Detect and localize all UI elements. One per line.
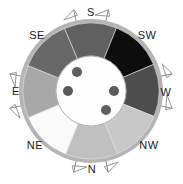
label-nw: NW	[139, 139, 158, 151]
label-e: E	[12, 85, 20, 97]
label-w: W	[161, 86, 172, 98]
label-se: SE	[29, 29, 45, 41]
label-n: N	[88, 163, 96, 175]
hub-dot-2[interactable]	[63, 86, 73, 96]
hub-dot-3[interactable]	[109, 86, 119, 96]
label-sw: SW	[138, 29, 157, 41]
label-ne: NE	[27, 139, 43, 151]
label-s: S	[87, 6, 95, 18]
compass-figure: SSWWNWNNEESE	[0, 0, 183, 184]
compass-diagram: SSWWNWNNEESE	[0, 0, 183, 184]
hub-dot-4[interactable]	[101, 105, 111, 115]
hub-dot-1[interactable]	[72, 67, 82, 77]
